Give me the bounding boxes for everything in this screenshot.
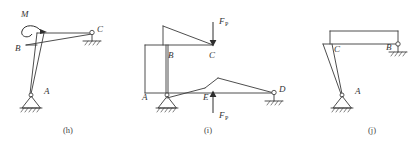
fig-i-d-hatching bbox=[267, 101, 282, 105]
fig-i-gable-slope bbox=[163, 26, 213, 45]
fig-i-label-C: C bbox=[209, 50, 216, 60]
fig-h-label-M: M bbox=[20, 9, 29, 19]
fig-h-column-left bbox=[30, 33, 37, 94]
fig-h-support-A bbox=[20, 93, 42, 112]
pin-circle-icon bbox=[90, 30, 94, 34]
fig-i-a-hatching bbox=[157, 108, 176, 112]
fig-i-lower-right-slope bbox=[218, 78, 274, 93]
fig-i-label-D: D bbox=[278, 84, 286, 94]
fig-i-load-FP-bottom bbox=[210, 91, 217, 114]
structural-diagrams-svg: M B C bbox=[0, 0, 414, 153]
fig-j-label-A: A bbox=[354, 86, 361, 96]
fig-j-label-B: B bbox=[386, 42, 392, 52]
fig-h-c-hatching bbox=[85, 41, 100, 45]
figure-j: C B bbox=[323, 31, 407, 135]
figure-h: M B C bbox=[15, 9, 104, 135]
fig-j-b-hatching bbox=[391, 52, 406, 56]
fig-h-a-hatching bbox=[21, 108, 40, 112]
fig-j-support-A bbox=[331, 93, 353, 112]
fig-i-label-FP-top-sub: P bbox=[225, 21, 229, 27]
fig-j-a-hatching bbox=[332, 108, 351, 112]
figure-sheet: M B C bbox=[0, 0, 414, 153]
fig-i-label-A: A bbox=[141, 92, 148, 102]
fig-i-label-E: E bbox=[202, 92, 209, 102]
force-arrowhead-icon bbox=[210, 91, 217, 98]
pin-circle-icon bbox=[396, 42, 400, 46]
fig-h-caption: (h) bbox=[63, 125, 73, 135]
fig-i-load-FP-top bbox=[210, 22, 217, 47]
force-arrowhead-icon bbox=[210, 40, 217, 47]
fig-h-label-C: C bbox=[97, 24, 104, 34]
fig-i-caption: (i) bbox=[204, 125, 212, 135]
moment-arrow-icon bbox=[22, 26, 41, 37]
fig-h-label-A: A bbox=[43, 86, 50, 96]
fig-i-label-B: B bbox=[168, 50, 174, 60]
fig-i-label-FP-bottom: F bbox=[218, 110, 225, 120]
fig-h-label-B: B bbox=[15, 43, 21, 53]
fig-j-a-triangle bbox=[333, 97, 351, 109]
fig-i-label-FP-top: F bbox=[218, 16, 225, 26]
pin-circle-icon bbox=[272, 90, 276, 94]
fig-h-a-triangle bbox=[22, 97, 40, 109]
fig-i-label-FP-bottom-sub: P bbox=[225, 115, 229, 121]
fig-j-caption: (j) bbox=[368, 125, 376, 135]
fig-i-lower-rise bbox=[205, 78, 218, 88]
fig-j-label-C: C bbox=[334, 44, 341, 54]
figure-i: F P F P B C A E D bbox=[141, 16, 286, 135]
